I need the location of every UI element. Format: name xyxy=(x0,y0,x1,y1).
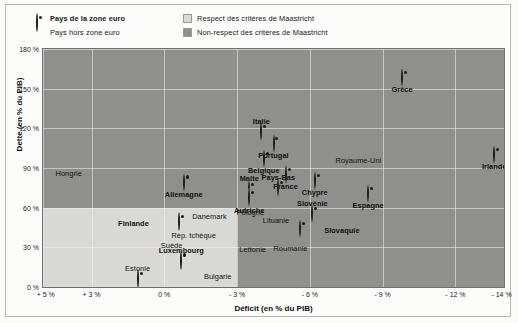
light-swatch-icon xyxy=(183,14,192,23)
x-axis-tick-label: + 3 % xyxy=(82,291,100,298)
legend-label-euro-countries: Pays de la zone euro xyxy=(50,14,125,23)
data-point-label: Bulgarie xyxy=(204,271,232,280)
legend-item-respect-criteria: Respect des critères de Maastricht xyxy=(183,12,314,24)
euro-circle-marker-icon xyxy=(178,212,180,231)
x-axis-label: Déficit (en % du PIB) xyxy=(42,304,505,313)
data-point-label: Irlande xyxy=(482,161,505,170)
chart-figure: Pays de la zone euro Pays hors zone euro… xyxy=(0,0,518,323)
data-point-label: Allemagne xyxy=(165,189,203,198)
y-axis-tick-label: 60 % xyxy=(23,204,39,211)
x-axis-tick-label: - 9 % xyxy=(375,291,391,298)
x-axis-tick-label: - 3 % xyxy=(229,291,245,298)
data-point-label: Danemark xyxy=(192,212,227,221)
data-point-label: Roumanie xyxy=(273,243,307,252)
legend-item-euro-countries: Pays de la zone euro xyxy=(36,12,125,24)
data-point-label: Finlande xyxy=(118,219,149,228)
legend-item-non-respect-criteria: Non-respect des critères de Maastricht xyxy=(183,26,328,38)
data-point-luxembourg xyxy=(180,252,182,270)
data-point-italie xyxy=(260,123,262,141)
data-point-label: Rép. tchèque xyxy=(171,230,216,239)
x-axis-tick-label: + 5 % xyxy=(37,291,55,298)
y-axis-tick-label: 90 % xyxy=(23,165,39,172)
y-axis-tick-label: 30 % xyxy=(23,244,39,251)
data-point-label: Estonie xyxy=(125,264,150,273)
y-axis-tick-label: 0 % xyxy=(27,284,39,291)
chart-legend: Pays de la zone euro Pays hors zone euro… xyxy=(36,12,436,40)
data-point-label: Italie xyxy=(253,117,270,126)
data-point-pays-bas xyxy=(277,179,279,197)
data-point-label: Royaume-Uni xyxy=(336,155,382,164)
gridline-horizontal xyxy=(43,49,504,50)
data-point-label: Portugal xyxy=(258,151,288,160)
data-point-label: Pologne xyxy=(237,207,264,216)
gridline-vertical xyxy=(504,49,505,287)
gridline-horizontal xyxy=(43,208,504,209)
gridline-horizontal xyxy=(43,89,504,90)
scatter-plot-area: HongrieAllemagneDanemarkFinlandeSuèdeRép… xyxy=(42,48,505,288)
euro-circle-marker-icon xyxy=(299,219,301,238)
data-point-finlande xyxy=(178,213,180,231)
data-point-estonie xyxy=(137,270,139,288)
y-axis-label: Dette (en % du PIB) xyxy=(15,40,24,190)
data-point-label: Hongrie xyxy=(56,168,82,177)
data-point-label: Espagne xyxy=(353,201,384,210)
data-point-label: Lettonie xyxy=(239,245,266,254)
x-axis-tick-label: - 14 % xyxy=(491,291,511,298)
data-point-label: Chypre xyxy=(302,188,328,197)
dot-marker-icon xyxy=(36,28,45,37)
euro-circle-marker-icon xyxy=(248,188,250,207)
x-axis-ticks: + 5 %+ 3 %0 %- 3 %- 6 %- 9 %- 12 %- 14 % xyxy=(42,291,505,303)
data-point-label: Grèce xyxy=(391,85,412,94)
data-point-label: Lituanie xyxy=(263,216,289,225)
data-point-slov-nie xyxy=(311,205,313,223)
data-point-label: Pays-Bas xyxy=(262,172,296,181)
legend-label-respect-criteria: Respect des critères de Maastricht xyxy=(197,14,314,23)
data-point-label: Slovénie xyxy=(297,199,328,208)
euro-circle-marker-icon xyxy=(36,14,45,23)
legend-item-non-euro-countries: Pays hors zone euro xyxy=(36,26,120,38)
data-point-slovaquie xyxy=(299,220,301,238)
data-point-autriche xyxy=(248,189,250,207)
data-point-label: Slovaquie xyxy=(324,225,359,234)
x-axis-tick-label: - 12 % xyxy=(445,291,465,298)
legend-label-non-euro-countries: Pays hors zone euro xyxy=(50,28,120,37)
dark-swatch-icon xyxy=(183,28,192,37)
gridline-horizontal xyxy=(43,128,504,129)
gridline-horizontal xyxy=(43,287,504,288)
x-axis-tick-label: - 6 % xyxy=(302,291,318,298)
data-point-label: Luxembourg xyxy=(159,245,204,254)
legend-label-non-respect-criteria: Non-respect des critères de Maastricht xyxy=(197,28,328,37)
x-axis-tick-label: 0 % xyxy=(158,291,170,298)
data-point-label: Malte xyxy=(240,174,259,183)
